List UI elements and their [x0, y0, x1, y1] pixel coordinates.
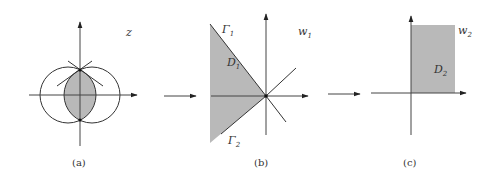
gamma2-label: Γ2	[227, 134, 241, 149]
ray-lower-right	[266, 96, 286, 122]
upper-intersection-point	[78, 68, 81, 71]
gamma1-label: Γ1	[221, 23, 234, 38]
plane-label-z: z	[125, 26, 132, 39]
lower-intersection-point	[78, 118, 81, 121]
plane-label-w2: w2	[458, 24, 472, 39]
region-d1-label: D1	[226, 56, 240, 71]
origin-point-b	[264, 94, 268, 98]
panel-a: z (a)	[29, 22, 137, 168]
region-d2	[411, 25, 455, 93]
conformal-mapping-figure: z (a) Γ1 Γ2 D1 w1 (b) D2 w2 (c)	[0, 0, 490, 181]
caption-a: (a)	[72, 157, 86, 168]
ray-upper-right	[266, 68, 296, 96]
caption-c: (c)	[403, 157, 417, 168]
region-d1	[210, 24, 266, 143]
panel-b: Γ1 Γ2 D1 w1 (b)	[210, 14, 312, 168]
plane-label-w1: w1	[298, 25, 312, 40]
panel-c: D2 w2 (c)	[371, 16, 472, 168]
caption-b: (b)	[254, 157, 268, 168]
